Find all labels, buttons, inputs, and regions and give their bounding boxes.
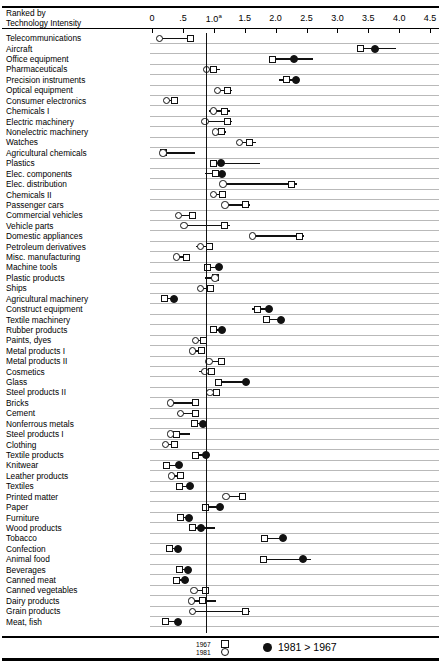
category-label: Commercial vehicles — [6, 210, 83, 220]
category-label: Confection — [6, 544, 46, 554]
x-axis-tick-labels: 0.51.0a1.52.02.53.03.54.04.5 — [0, 13, 441, 26]
marker-1981 — [218, 326, 226, 334]
marker-1981 — [177, 410, 184, 417]
row-separator — [150, 626, 439, 627]
row-separator — [150, 95, 439, 96]
marker-1967 — [189, 524, 196, 531]
frame-bottom-border — [2, 658, 439, 661]
category-label: Optical equipment — [6, 85, 73, 95]
category-label: Domestic appliances — [6, 231, 83, 241]
marker-1967 — [192, 452, 199, 459]
row-separator — [150, 616, 439, 617]
marker-1981 — [192, 337, 199, 344]
marker-1967 — [224, 87, 231, 94]
category-label: Watches — [6, 137, 38, 147]
category-label: Metal products II — [6, 356, 67, 366]
row-separator — [150, 491, 439, 492]
category-label: Textiles — [6, 481, 34, 491]
row-separator — [150, 366, 439, 367]
marker-1967 — [218, 128, 225, 135]
category-label: Steel products I — [6, 429, 64, 439]
category-label: Petroleum derivatives — [6, 242, 86, 252]
marker-1981 — [210, 191, 217, 198]
marker-1967 — [171, 97, 178, 104]
category-label: Wood products — [6, 523, 62, 533]
marker-1981 — [168, 472, 175, 479]
category-label: Chemicals I — [6, 106, 49, 116]
range-connector — [163, 152, 195, 153]
row-separator — [150, 262, 439, 263]
category-label: Ships — [6, 283, 27, 293]
marker-1967 — [221, 222, 228, 229]
marker-1981 — [184, 566, 192, 574]
marker-1967 — [218, 358, 225, 365]
category-label: Rubber products — [6, 325, 67, 335]
row-separator — [150, 324, 439, 325]
category-label: Canned meat — [6, 575, 56, 585]
marker-1981 — [277, 316, 285, 324]
marker-1967 — [221, 108, 228, 115]
marker-1967 — [213, 389, 220, 396]
marker-1981 — [175, 212, 182, 219]
marker-1981 — [173, 253, 180, 260]
legend-comparison-text: 1981 > 1967 — [278, 641, 337, 653]
row-separator — [150, 606, 439, 607]
category-label: Leather products — [6, 471, 68, 481]
category-label: Chemicals II — [6, 190, 52, 200]
marker-1967 — [163, 462, 170, 469]
marker-1981 — [163, 97, 170, 104]
row-separator — [150, 595, 439, 596]
marker-1981 — [210, 107, 217, 114]
marker-1981 — [214, 87, 221, 94]
row-separator — [150, 376, 439, 377]
marker-1981 — [222, 493, 229, 500]
marker-1967 — [239, 493, 246, 500]
category-label: Telecommunications — [6, 33, 81, 43]
marker-1981 — [180, 222, 187, 229]
row-separator — [150, 397, 439, 398]
category-label: Aircraft — [6, 44, 32, 54]
row-separator — [150, 283, 439, 284]
marker-1981 — [185, 514, 193, 522]
marker-1981 — [215, 263, 223, 271]
marker-1981 — [290, 55, 298, 63]
range-connector — [223, 183, 297, 184]
row-separator — [150, 74, 439, 75]
category-label: Plastic products — [6, 273, 65, 283]
category-label: Precision instruments — [6, 75, 85, 85]
marker-1967 — [357, 45, 364, 52]
category-label: Cement — [6, 408, 35, 418]
marker-1967 — [198, 347, 205, 354]
row-separator — [150, 241, 439, 242]
category-label: Passenger cars — [6, 200, 64, 210]
marker-1981 — [212, 128, 219, 135]
category-label: Nonferrous metals — [6, 419, 74, 429]
chart-container: Ranked by Technology Intensity 0.51.0a1.… — [0, 0, 441, 667]
marker-1981 — [197, 243, 204, 250]
marker-1967 — [171, 441, 178, 448]
marker-1981 — [219, 180, 226, 187]
row-separator — [150, 439, 439, 440]
marker-1967 — [176, 483, 183, 490]
marker-1981 — [242, 378, 250, 386]
category-label: Textile products — [6, 450, 64, 460]
marker-1967 — [177, 472, 184, 479]
marker-1981 — [211, 274, 218, 281]
row-separator — [150, 230, 439, 231]
x-tick-label-.5: .5 — [179, 13, 187, 23]
marker-1967 — [192, 399, 199, 406]
category-label: Paper — [6, 502, 28, 512]
row-separator — [150, 199, 439, 200]
row-separator — [150, 356, 439, 357]
row-separator — [150, 314, 439, 315]
marker-1967 — [189, 212, 196, 219]
row-separator — [150, 585, 439, 586]
row-separator — [150, 116, 439, 117]
category-label: Animal food — [6, 554, 50, 564]
marker-1967 — [283, 76, 290, 83]
row-separator — [150, 408, 439, 409]
marker-1967 — [187, 35, 194, 42]
marker-1967 — [173, 577, 180, 584]
marker-1967 — [215, 379, 222, 386]
category-label: Furniture — [6, 513, 39, 523]
